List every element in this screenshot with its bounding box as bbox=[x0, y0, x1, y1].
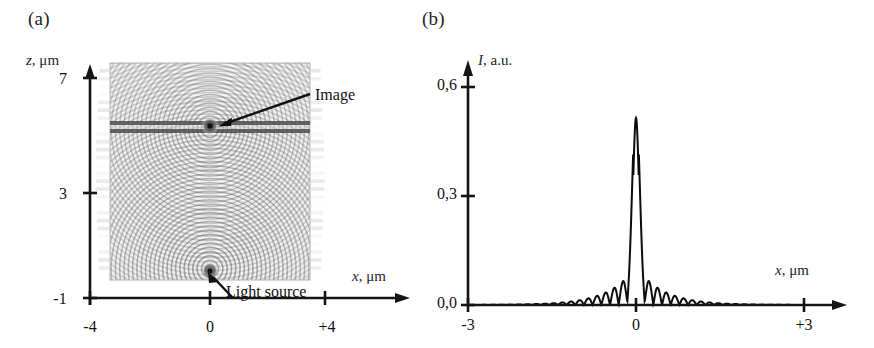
panel-a-svg bbox=[0, 0, 440, 348]
figure-container: (a) z, μm x, μm 7 3 -1 -4 0 +4 Image Lig… bbox=[0, 0, 874, 348]
panel-b-x-axis bbox=[468, 298, 847, 312]
panel-a: (a) z, μm x, μm 7 3 -1 -4 0 +4 Image Lig… bbox=[0, 0, 440, 348]
intensity-curve bbox=[468, 118, 804, 305]
panel-a-y-axis bbox=[83, 64, 97, 305]
panel-b-y-axis bbox=[461, 60, 475, 306]
panel-b-svg bbox=[430, 0, 874, 348]
panel-a-x-axis bbox=[90, 291, 410, 305]
image-focus-point bbox=[201, 117, 219, 135]
panel-b: (b) I, a.u. x, μm 0,6 0,3 0,0 -3 0 +3 bbox=[430, 0, 874, 348]
